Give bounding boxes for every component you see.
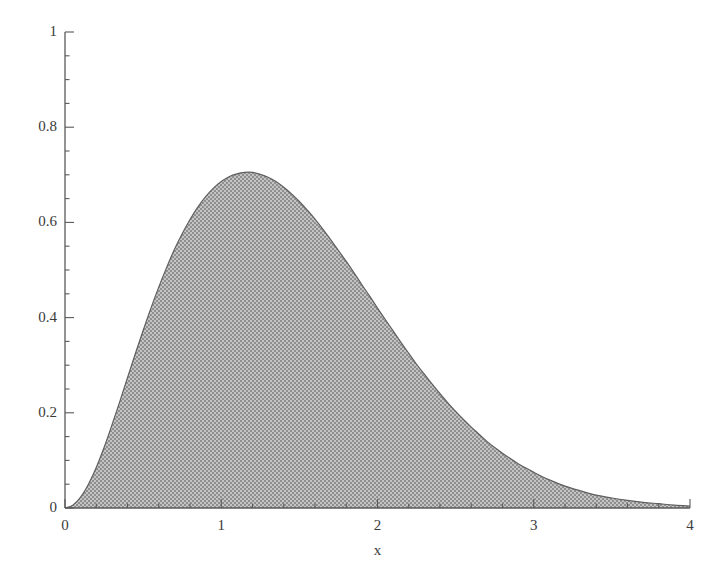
y-tick-label: 0.6 [38,214,57,229]
y-tick-label: 0.4 [38,310,57,325]
area-fill-group [65,172,690,508]
x-tick-label: 4 [670,518,710,533]
chart-figure: 00.20.40.60.81 01234 x [0,0,725,568]
y-axis-ticks [65,32,74,508]
x-tick-label: 3 [514,518,554,533]
density-area-fill [65,172,690,508]
y-tick-label: 0 [50,500,58,515]
y-tick-label: 0.2 [38,405,57,420]
x-tick-label: 1 [201,518,241,533]
x-tick-label: 0 [45,518,85,533]
y-tick-label: 1 [50,24,58,39]
x-tick-label: 2 [358,518,398,533]
y-tick-label: 0.8 [38,119,57,134]
plot-canvas [0,0,725,568]
x-axis-title: x [65,543,690,558]
